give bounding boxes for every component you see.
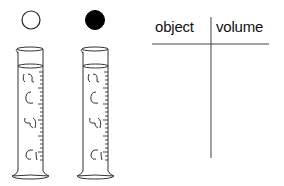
table-header-object: object — [155, 19, 194, 35]
table-header-volume: volume — [216, 19, 263, 35]
open-circle-object — [22, 11, 40, 29]
filled-circle-object — [86, 11, 105, 30]
graduated-cylinder-2 — [77, 47, 114, 179]
graduated-cylinder-1 — [12, 47, 49, 179]
